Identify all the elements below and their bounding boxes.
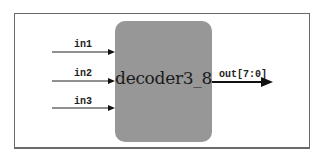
input-label-in2: in2 [74, 68, 92, 79]
input-label-in1: in1 [74, 39, 92, 50]
arrow-right-icon [108, 49, 115, 55]
wires [0, 0, 323, 159]
arrow-right-icon [108, 78, 115, 84]
arrow-right-icon [108, 105, 115, 111]
output-label-out: out[7:0] [219, 69, 267, 80]
input-label-in3: in3 [74, 96, 92, 107]
